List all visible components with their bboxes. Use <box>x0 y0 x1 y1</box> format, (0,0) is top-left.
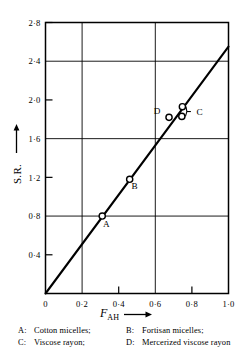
trend-line <box>46 47 229 294</box>
data-point-d <box>166 114 172 120</box>
y-tick-label: 1·2 <box>28 173 40 183</box>
y-axis-arrow-icon <box>12 124 21 154</box>
legend-text-b: Fortisan micelles; <box>142 325 204 337</box>
legend-entry-d: D: Mercerized viscose rayon <box>126 337 230 349</box>
figure-container: 0·40·81·21·62·02·42·800·20·40·60·81·0ABD… <box>0 0 250 353</box>
caption-row: A: Cotton micelles; B: Fortisan micelles… <box>18 325 243 337</box>
caption-row: C: Viscose rayon; D: Mercerized viscose … <box>18 337 243 349</box>
legend-text-d: Mercerized viscose rayon <box>142 337 230 349</box>
legend-key-d: D: <box>126 337 142 349</box>
legend-text-a: Cotton micelles; <box>34 325 91 337</box>
x-axis-label: FAH <box>100 306 119 322</box>
y-tick-label: 2·0 <box>28 95 40 105</box>
legend-entry-a: A: Cotton micelles; <box>18 325 126 337</box>
data-point-c <box>179 104 185 110</box>
data-point-label-b: B <box>132 181 138 191</box>
y-tick-label: 0·8 <box>28 211 40 221</box>
legend-entry-c: C: Viscose rayon; <box>18 337 126 349</box>
x-axis-arrow-icon <box>124 310 152 319</box>
y-tick-label: 0·4 <box>28 250 41 260</box>
data-point-label-a: A <box>103 219 110 229</box>
legend-key-a: A: <box>18 325 34 337</box>
y-tick-label: 1·6 <box>28 134 41 144</box>
legend-key-c: C: <box>18 337 34 349</box>
x-axis-label-group: FAH <box>100 305 210 323</box>
x-tick-label: 1·0 <box>222 299 234 309</box>
legend-text-c: Viscose rayon; <box>34 337 85 349</box>
legend-key-b: B: <box>126 325 142 337</box>
x-tick-label: 0 <box>43 299 48 309</box>
data-point-label-d: D <box>154 106 161 116</box>
plot-area: 0·40·81·21·62·02·42·800·20·40·60·81·0ABD… <box>0 0 250 353</box>
axes-frame <box>46 23 229 294</box>
legend-entry-b: B: Fortisan micelles; <box>126 325 204 337</box>
data-point-c <box>179 113 185 119</box>
y-tick-label: 2·4 <box>28 56 41 66</box>
figure-caption: A: Cotton micelles; B: Fortisan micelles… <box>18 325 243 348</box>
data-point-label-c: C <box>196 107 202 117</box>
x-tick-label: 0·2 <box>76 299 88 309</box>
y-tick-label: 2·8 <box>28 18 40 28</box>
y-axis-label: S.R. <box>11 162 23 186</box>
